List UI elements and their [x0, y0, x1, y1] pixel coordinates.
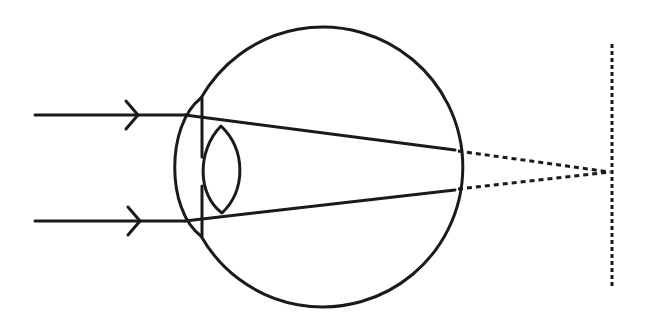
refracted-ray-lower: [185, 190, 455, 221]
cornea: [175, 98, 201, 236]
lens: [203, 126, 240, 213]
eye-diagram: [0, 0, 650, 328]
extended-ray-upper: [458, 151, 610, 172]
extended-ray-lower: [458, 172, 610, 189]
